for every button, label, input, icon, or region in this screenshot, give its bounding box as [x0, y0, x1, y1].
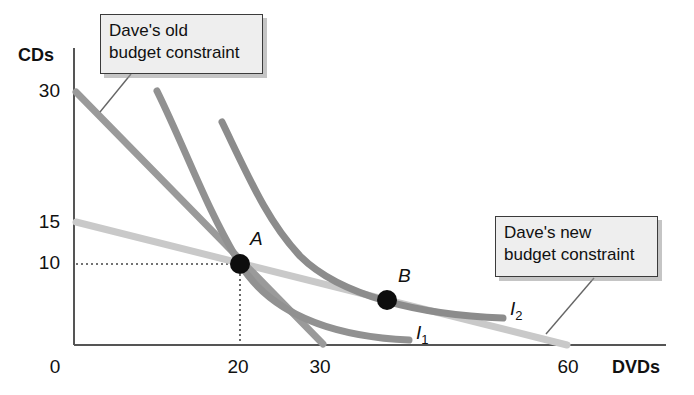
y-tick-label-15: 15 — [26, 211, 60, 233]
callout-new-leader-line — [546, 278, 594, 334]
economics-indifference-curve-figure: CDs DVDs 30 15 10 0 20 30 60 A B I1 I2 D… — [0, 0, 694, 395]
x-tick-label-30: 30 — [304, 356, 336, 378]
curve-label-i1: I1 — [416, 322, 429, 347]
curve-label-i2: I2 — [510, 298, 523, 323]
callout-new-budget-constraint: Dave's new budget constraint — [495, 216, 658, 277]
point-label-b: B — [398, 265, 411, 287]
callout-old-budget-constraint: Dave's old budget constraint — [100, 14, 263, 74]
y-axis-title: CDs — [18, 45, 54, 66]
x-tick-label-60: 60 — [552, 356, 584, 378]
curve-label-i1-subscript: 1 — [421, 332, 428, 347]
x-tick-label-0: 0 — [41, 356, 69, 378]
y-tick-label-10: 10 — [26, 252, 60, 274]
x-tick-label-20: 20 — [222, 356, 254, 378]
point-marker-a — [230, 254, 250, 274]
y-tick-label-30: 30 — [26, 80, 60, 102]
point-marker-b — [377, 290, 397, 310]
curve-label-i2-subscript: 2 — [515, 308, 522, 323]
callout-old-leader-line — [100, 74, 131, 112]
point-label-a: A — [250, 228, 263, 250]
x-axis-title: DVDs — [612, 357, 660, 378]
